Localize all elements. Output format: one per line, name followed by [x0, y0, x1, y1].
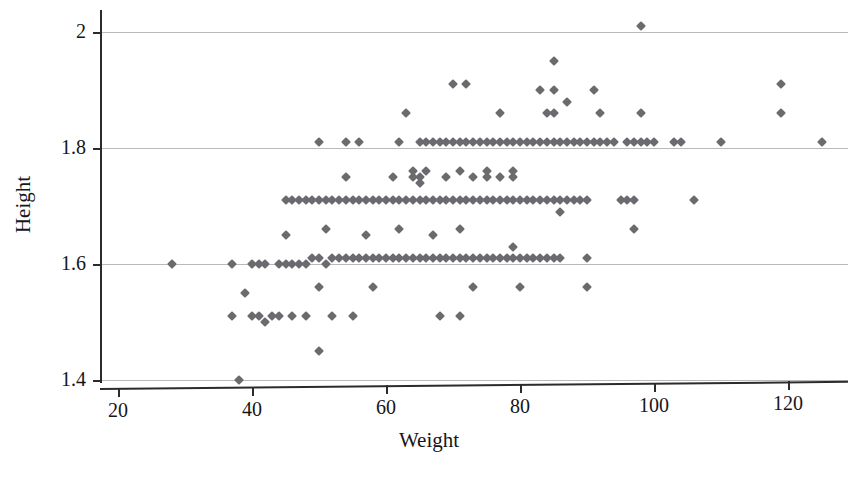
data-point	[394, 137, 404, 147]
gridline-y	[100, 148, 848, 149]
data-point	[549, 56, 559, 66]
data-point	[234, 375, 244, 385]
gridline-y	[100, 264, 848, 265]
data-point	[562, 97, 572, 107]
data-point	[689, 195, 699, 205]
data-point	[468, 282, 478, 292]
data-point	[227, 311, 237, 321]
data-point	[274, 311, 284, 321]
data-point	[287, 311, 297, 321]
data-point	[281, 230, 291, 240]
data-point	[455, 311, 465, 321]
data-point	[455, 166, 465, 176]
data-point	[495, 108, 505, 118]
data-point	[649, 137, 659, 147]
data-point	[428, 230, 438, 240]
data-point	[341, 137, 351, 147]
data-point	[455, 224, 465, 234]
data-point	[636, 21, 646, 31]
y-tick-label: 1.8	[61, 137, 86, 157]
x-tick-mark	[252, 387, 254, 396]
scatter-plot-figure: 1.41.61.8220406080100120 Height Weight	[0, 0, 858, 477]
data-point	[327, 311, 337, 321]
data-point	[341, 172, 351, 182]
data-point	[167, 259, 177, 269]
data-point	[508, 242, 518, 252]
data-point	[555, 207, 565, 217]
data-point	[776, 108, 786, 118]
data-point	[549, 108, 559, 118]
x-tick-label: 60	[346, 397, 426, 417]
data-point	[361, 230, 371, 240]
data-point	[321, 224, 331, 234]
y-tick-mark	[93, 32, 102, 34]
y-axis-label-wrap: Height	[6, 150, 40, 270]
data-point	[515, 282, 525, 292]
y-tick-label: 2	[76, 21, 86, 41]
data-point	[776, 79, 786, 89]
data-point	[495, 172, 505, 182]
data-point	[595, 108, 605, 118]
data-point	[240, 288, 250, 298]
x-axis-line	[100, 381, 848, 390]
data-point	[260, 259, 270, 269]
x-axis-label: Weight	[0, 428, 858, 453]
data-point	[609, 137, 619, 147]
data-point	[535, 85, 545, 95]
data-point	[716, 137, 726, 147]
data-point	[368, 282, 378, 292]
x-tick-mark	[520, 384, 522, 393]
x-tick-mark	[788, 381, 790, 390]
y-tick-mark	[93, 148, 102, 150]
data-point	[314, 282, 324, 292]
data-point	[227, 259, 237, 269]
data-point	[388, 172, 398, 182]
data-point	[461, 79, 471, 89]
data-point	[435, 311, 445, 321]
data-point	[817, 137, 827, 147]
data-point	[468, 172, 478, 182]
data-point	[582, 282, 592, 292]
x-tick-label: 80	[480, 396, 560, 416]
y-tick-label: 1.6	[61, 253, 86, 273]
x-tick-label: 20	[78, 400, 158, 420]
data-point	[589, 85, 599, 95]
data-point	[314, 346, 324, 356]
data-point	[636, 108, 646, 118]
plot-area	[100, 10, 848, 382]
x-tick-label: 40	[212, 399, 292, 419]
y-tick-mark	[93, 380, 102, 382]
data-point	[629, 195, 639, 205]
data-point	[448, 79, 458, 89]
data-point	[629, 224, 639, 234]
x-tick-label: 120	[748, 393, 828, 413]
data-point	[549, 85, 559, 95]
gridline-y	[100, 380, 848, 381]
y-tick-label: 1.4	[61, 369, 86, 389]
gridline-y	[100, 32, 848, 33]
data-point	[441, 172, 451, 182]
x-tick-mark	[118, 388, 120, 397]
data-point	[314, 137, 324, 147]
data-point	[354, 137, 364, 147]
data-point	[555, 253, 565, 263]
data-point	[394, 224, 404, 234]
x-tick-mark	[654, 383, 656, 392]
y-tick-mark	[93, 264, 102, 266]
data-point	[301, 311, 311, 321]
x-tick-label: 100	[614, 395, 694, 415]
data-point	[401, 108, 411, 118]
data-point	[676, 137, 686, 147]
y-axis-label: Height	[11, 155, 36, 255]
x-tick-mark	[386, 385, 388, 394]
data-point	[582, 195, 592, 205]
data-point	[582, 253, 592, 263]
data-point	[482, 172, 492, 182]
data-point	[348, 311, 358, 321]
y-axis-line	[100, 10, 102, 383]
data-point	[508, 172, 518, 182]
data-point	[415, 178, 425, 188]
